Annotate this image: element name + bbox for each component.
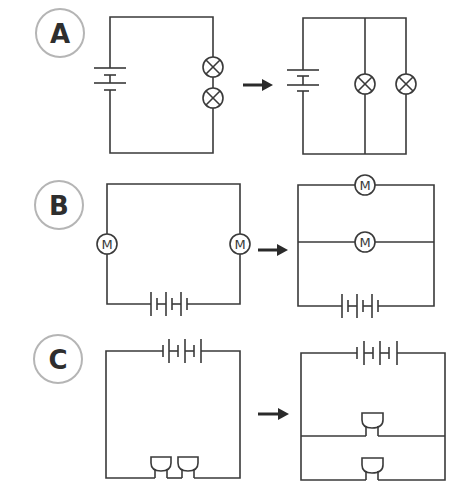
circuit-b-series: M M (97, 184, 250, 316)
panel-label-b: B (35, 181, 83, 229)
motor-icon: M (355, 232, 375, 252)
panel-b: B M M (35, 175, 434, 318)
battery-icon (163, 339, 201, 363)
panel-label-a: A (36, 9, 84, 57)
battery-icon (287, 70, 319, 91)
circuit-a-series (94, 17, 223, 153)
svg-text:M: M (101, 237, 112, 252)
svg-text:M: M (359, 178, 370, 193)
circuit-diagram: A (0, 0, 475, 495)
lamp-icon (396, 74, 416, 94)
circuit-b-parallel: M M (298, 175, 434, 318)
svg-text:M: M (359, 235, 370, 250)
battery-icon (94, 68, 126, 90)
arrow-right-icon (258, 408, 289, 420)
panel-label-c: C (34, 335, 82, 383)
panel-c: C (34, 335, 445, 480)
circuit-c-parallel (301, 341, 445, 480)
motor-icon: M (230, 234, 250, 254)
circuit-c-series (106, 339, 240, 478)
motor-icon: M (355, 175, 375, 195)
lamp-icon (355, 74, 375, 94)
lamp-icon (203, 57, 223, 77)
arrow-right-icon (243, 79, 273, 91)
circuit-a-parallel (287, 18, 416, 154)
buzzer-icon (362, 458, 383, 480)
motor-icon: M (97, 234, 117, 254)
battery-icon (151, 292, 187, 316)
buzzer-icon (362, 413, 383, 436)
battery-icon (357, 341, 397, 365)
buzzer-icon (178, 457, 198, 478)
svg-text:B: B (49, 191, 69, 221)
svg-text:C: C (48, 345, 67, 375)
svg-text:A: A (50, 19, 70, 49)
battery-icon (342, 294, 378, 318)
arrow-right-icon (258, 244, 288, 256)
buzzer-icon (151, 457, 171, 478)
lamp-icon (203, 88, 223, 108)
panel-a: A (36, 9, 416, 154)
svg-text:M: M (234, 237, 245, 252)
